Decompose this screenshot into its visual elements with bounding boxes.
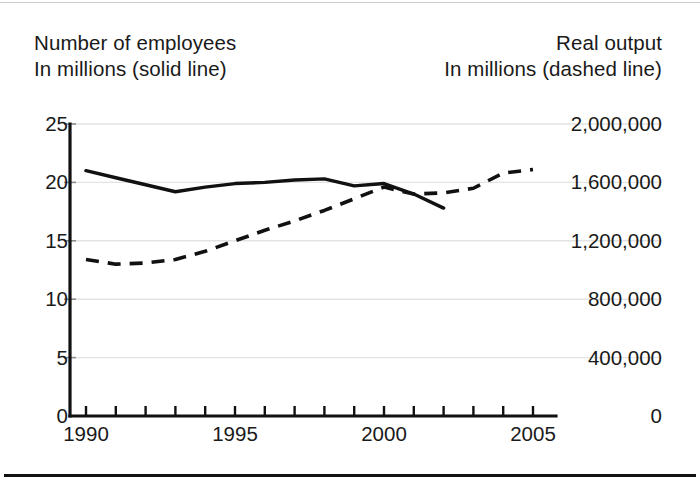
y-tick-label-right: 2,000,000 — [571, 114, 662, 135]
series-line-real-output — [86, 170, 533, 265]
y-tick-label-right: 400,000 — [588, 347, 662, 368]
y-tick-label-right: 1,200,000 — [571, 231, 662, 252]
x-tick-label: 2005 — [510, 424, 556, 445]
x-tick-label: 2000 — [361, 424, 407, 445]
y-tick-label-left: 20 — [45, 172, 68, 193]
y-tick-label-right: 0 — [651, 406, 662, 427]
y-tick-label-left: 5 — [57, 347, 68, 368]
y-tick-label-left: 25 — [45, 114, 68, 135]
x-tick-label: 1995 — [212, 424, 258, 445]
chart-figure: Number of employees In millions (solid l… — [0, 0, 700, 484]
y-tick-label-left: 15 — [45, 231, 68, 252]
x-tick-label: 1990 — [63, 424, 109, 445]
y-tick-label-right: 1,600,000 — [571, 172, 662, 193]
y-tick-label-left: 10 — [45, 289, 68, 310]
bottom-divider — [4, 474, 696, 477]
y-tick-label-right: 800,000 — [588, 289, 662, 310]
